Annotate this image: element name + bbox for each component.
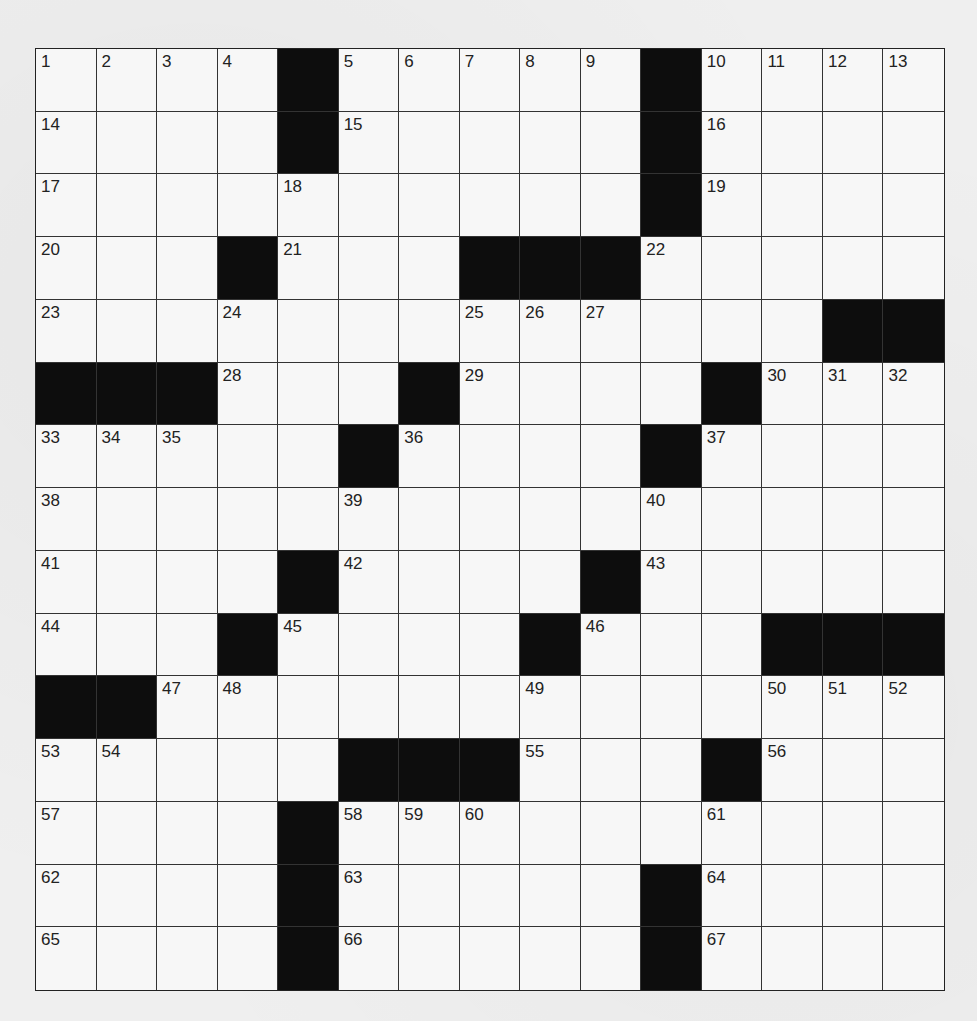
grid-cell[interactable] (278, 739, 339, 802)
grid-cell[interactable]: 20 (36, 237, 97, 300)
grid-cell[interactable] (520, 865, 581, 928)
grid-cell[interactable] (520, 174, 581, 237)
grid-cell[interactable] (883, 927, 944, 990)
grid-cell[interactable] (218, 425, 279, 488)
grid-cell[interactable] (702, 614, 763, 677)
grid-cell[interactable] (520, 488, 581, 551)
grid-cell[interactable] (97, 927, 158, 990)
grid-cell[interactable]: 34 (97, 425, 158, 488)
grid-cell[interactable]: 35 (157, 425, 218, 488)
grid-cell[interactable] (218, 739, 279, 802)
grid-cell[interactable] (218, 174, 279, 237)
grid-cell[interactable] (460, 865, 521, 928)
grid-cell[interactable] (823, 488, 884, 551)
grid-cell[interactable] (218, 551, 279, 614)
grid-cell[interactable]: 56 (762, 739, 823, 802)
grid-cell[interactable] (399, 927, 460, 990)
grid-cell[interactable] (339, 300, 400, 363)
grid-cell[interactable] (883, 802, 944, 865)
grid-cell[interactable] (278, 300, 339, 363)
grid-cell[interactable] (399, 300, 460, 363)
grid-cell[interactable] (97, 802, 158, 865)
grid-cell[interactable] (762, 425, 823, 488)
grid-cell[interactable]: 62 (36, 865, 97, 928)
grid-cell[interactable] (399, 112, 460, 175)
grid-cell[interactable] (823, 237, 884, 300)
grid-cell[interactable]: 39 (339, 488, 400, 551)
grid-cell[interactable]: 9 (581, 49, 642, 112)
grid-cell[interactable] (581, 488, 642, 551)
grid-cell[interactable] (581, 174, 642, 237)
grid-cell[interactable] (157, 802, 218, 865)
grid-cell[interactable] (97, 488, 158, 551)
grid-cell[interactable]: 64 (702, 865, 763, 928)
grid-cell[interactable] (157, 865, 218, 928)
grid-cell[interactable] (581, 425, 642, 488)
grid-cell[interactable] (883, 425, 944, 488)
grid-cell[interactable] (641, 363, 702, 426)
grid-cell[interactable] (883, 739, 944, 802)
grid-cell[interactable] (762, 551, 823, 614)
grid-cell[interactable] (97, 865, 158, 928)
grid-cell[interactable] (883, 174, 944, 237)
grid-cell[interactable] (641, 300, 702, 363)
grid-cell[interactable]: 37 (702, 425, 763, 488)
grid-cell[interactable]: 38 (36, 488, 97, 551)
grid-cell[interactable]: 22 (641, 237, 702, 300)
grid-cell[interactable] (460, 927, 521, 990)
grid-cell[interactable] (702, 237, 763, 300)
grid-cell[interactable]: 32 (883, 363, 944, 426)
grid-cell[interactable]: 21 (278, 237, 339, 300)
grid-cell[interactable] (581, 739, 642, 802)
grid-cell[interactable] (157, 927, 218, 990)
grid-cell[interactable] (883, 237, 944, 300)
grid-cell[interactable] (762, 174, 823, 237)
grid-cell[interactable] (581, 802, 642, 865)
grid-cell[interactable] (883, 488, 944, 551)
grid-cell[interactable]: 47 (157, 676, 218, 739)
grid-cell[interactable] (97, 174, 158, 237)
grid-cell[interactable] (460, 676, 521, 739)
grid-cell[interactable] (883, 865, 944, 928)
grid-cell[interactable] (278, 676, 339, 739)
grid-cell[interactable] (702, 551, 763, 614)
grid-cell[interactable]: 67 (702, 927, 763, 990)
grid-cell[interactable] (339, 363, 400, 426)
grid-cell[interactable] (399, 865, 460, 928)
grid-cell[interactable] (641, 802, 702, 865)
grid-cell[interactable] (883, 112, 944, 175)
grid-cell[interactable]: 31 (823, 363, 884, 426)
grid-cell[interactable] (823, 112, 884, 175)
grid-cell[interactable] (97, 614, 158, 677)
grid-cell[interactable]: 41 (36, 551, 97, 614)
grid-cell[interactable]: 25 (460, 300, 521, 363)
grid-cell[interactable]: 27 (581, 300, 642, 363)
grid-cell[interactable] (157, 614, 218, 677)
grid-cell[interactable] (278, 488, 339, 551)
grid-cell[interactable] (339, 614, 400, 677)
grid-cell[interactable] (762, 112, 823, 175)
grid-cell[interactable] (762, 488, 823, 551)
grid-cell[interactable]: 66 (339, 927, 400, 990)
grid-cell[interactable]: 12 (823, 49, 884, 112)
grid-cell[interactable] (641, 614, 702, 677)
grid-cell[interactable]: 49 (520, 676, 581, 739)
grid-cell[interactable] (97, 237, 158, 300)
grid-cell[interactable]: 48 (218, 676, 279, 739)
grid-cell[interactable]: 61 (702, 802, 763, 865)
grid-cell[interactable]: 16 (702, 112, 763, 175)
grid-cell[interactable] (157, 237, 218, 300)
grid-cell[interactable] (97, 112, 158, 175)
grid-cell[interactable]: 17 (36, 174, 97, 237)
grid-cell[interactable]: 8 (520, 49, 581, 112)
grid-cell[interactable] (520, 425, 581, 488)
grid-cell[interactable] (520, 112, 581, 175)
grid-cell[interactable]: 11 (762, 49, 823, 112)
grid-cell[interactable] (460, 174, 521, 237)
grid-cell[interactable] (702, 676, 763, 739)
grid-cell[interactable] (399, 174, 460, 237)
grid-cell[interactable]: 24 (218, 300, 279, 363)
grid-cell[interactable] (97, 300, 158, 363)
grid-cell[interactable] (157, 739, 218, 802)
grid-cell[interactable] (399, 488, 460, 551)
